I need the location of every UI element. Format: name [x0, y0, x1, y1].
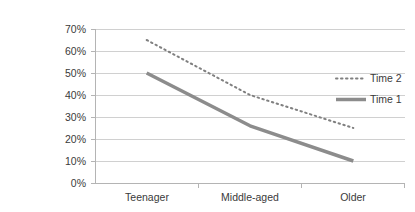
chart-canvas: 70% 60% 50% 40% 30% 20% 10% 0% Teenager …	[0, 0, 415, 212]
x-axis-label: Older	[340, 191, 366, 203]
x-axis	[95, 183, 405, 188]
x-axis-label: Middle-aged	[221, 191, 279, 203]
y-axis-labels: 70% 60% 50% 40% 30% 20% 10% 0%	[65, 23, 86, 189]
legend-label-time2: Time 2	[370, 72, 402, 84]
x-axis-labels: Teenager Middle-aged Older	[125, 191, 366, 203]
y-axis-label: 50%	[65, 67, 86, 79]
legend: Time 2 Time 1	[336, 72, 402, 105]
legend-item-time1[interactable]: Time 1	[336, 93, 402, 105]
y-axis-label: 60%	[65, 45, 86, 57]
y-axis-label: 0%	[71, 177, 86, 189]
series-time2	[147, 40, 354, 128]
line-chart: 70% 60% 50% 40% 30% 20% 10% 0% Teenager …	[0, 0, 415, 212]
y-axis	[91, 29, 96, 184]
y-axis-label: 20%	[65, 133, 86, 145]
y-axis-label: 10%	[65, 155, 86, 167]
y-axis-label: 30%	[65, 111, 86, 123]
x-axis-label: Teenager	[125, 191, 169, 203]
y-axis-label: 70%	[65, 23, 86, 35]
legend-label-time1: Time 1	[370, 93, 402, 105]
y-axis-label: 40%	[65, 89, 86, 101]
series-line-time2	[147, 40, 354, 128]
